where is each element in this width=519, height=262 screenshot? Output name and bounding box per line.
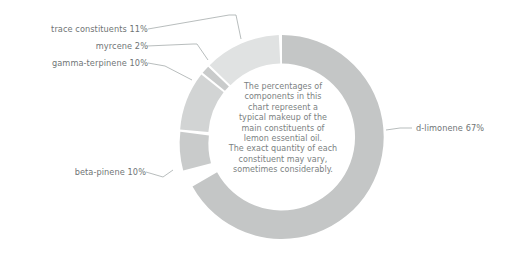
leader-line-gamma-terpinene — [148, 63, 192, 80]
center-annotation-line: main constituents of — [207, 124, 359, 134]
center-annotation-line: sometimes considerably. — [207, 165, 359, 175]
center-annotation-line: chart represent a — [207, 103, 359, 113]
center-annotation-line: lemon essential oil. — [207, 134, 359, 144]
slice-trace-constituents[interactable] — [210, 35, 281, 85]
label-d-limonene: d-limonene 67% — [416, 124, 484, 132]
leader-line-beta-pinene — [146, 170, 173, 177]
label-beta-pinene: beta-pinene 10% — [10, 168, 146, 176]
center-annotation-line: components in this — [207, 92, 359, 102]
leader-line-myrcene — [147, 44, 208, 60]
label-gamma-terpinene: gamma-terpinene 10% — [10, 59, 148, 67]
leader-line-d-limonene — [386, 128, 412, 130]
center-annotation-line: typical makeup of the — [207, 113, 359, 123]
center-annotation: The percentages of components in this ch… — [207, 82, 359, 176]
center-annotation-line: constituent may vary, — [207, 155, 359, 165]
center-annotation-line: The percentages of — [207, 82, 359, 92]
center-annotation-line: The exact quantity of each — [207, 144, 359, 154]
donut-chart: trace constituents 11% myrcene 2% gamma-… — [0, 0, 519, 262]
leader-line-trace-constituents — [148, 15, 241, 39]
label-myrcene: myrcene 2% — [10, 42, 148, 50]
label-trace-constituents: trace constituents 11% — [10, 25, 148, 33]
